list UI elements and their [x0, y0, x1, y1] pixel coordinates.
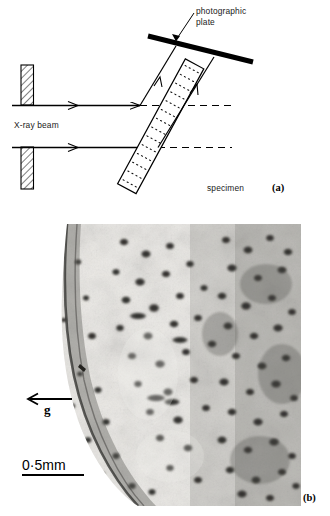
- scale-bar-line: [22, 474, 84, 476]
- g-vector-label: g: [44, 403, 51, 416]
- photographic-plate-label: photographic plate: [196, 6, 246, 27]
- diffracted-beam-upper-arrowhead: [154, 77, 162, 87]
- panel-tag-b: (b): [303, 492, 316, 503]
- scale-bar-label: 0·5mm: [22, 458, 98, 473]
- upper-collimator-slit-icon: [21, 65, 34, 105]
- photographic-plate-icon: [148, 36, 253, 62]
- lower-collimator-slit-icon: [21, 147, 34, 189]
- scale-bar: 0·5mm: [22, 458, 98, 476]
- panel-tag-a: (a): [272, 182, 284, 193]
- figure-root: photographic plate X-ray beam specimen (…: [0, 0, 330, 516]
- specimen-label: specimen: [207, 183, 244, 194]
- g-vector-annotation: g: [22, 391, 80, 425]
- xray-beam-label: X-ray beam: [14, 120, 59, 131]
- g-vector-arrow-icon: [22, 391, 80, 413]
